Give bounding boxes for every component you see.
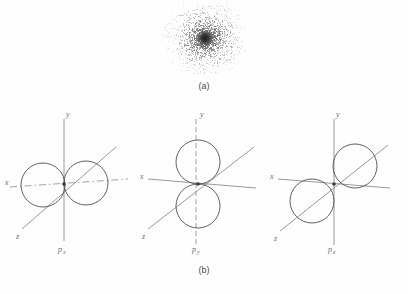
panel-b-p-orbitals: y x z p x y x z p y (0, 105, 408, 294)
y-axis-label: y (335, 110, 340, 119)
x-axis-label: x (139, 172, 144, 181)
p-z-lobe-positive (333, 144, 377, 188)
z-axis-line (22, 147, 116, 229)
p-y-orbital-subscript: y (196, 249, 200, 255)
p-y-lobe-positive (176, 140, 220, 184)
x-axis-label: x (4, 178, 9, 187)
electron-cloud-canvas (155, 2, 255, 74)
y-axis-label: y (65, 110, 70, 119)
y-axis-label: y (199, 110, 204, 119)
z-axis-line (148, 147, 254, 229)
x-axis-label: x (269, 172, 274, 181)
nucleus-point (332, 182, 336, 186)
p-x-orbital-label: p (57, 245, 62, 254)
p-x-orbital-diagram: y x z p x (2, 105, 138, 255)
caption-panel-a: (a) (0, 81, 408, 91)
z-axis-label: z (273, 234, 278, 243)
panel-a-electron-cloud: (a) (0, 0, 408, 105)
p-z-orbital-subscript: z (332, 249, 336, 255)
z-axis-label: z (15, 232, 20, 241)
electron-density-cloud (155, 2, 255, 74)
nucleus-point (62, 182, 66, 186)
p-y-orbital-label: p (191, 245, 196, 254)
caption-panel-b: (b) (0, 265, 408, 275)
z-axis-label: z (141, 232, 146, 241)
p-z-lobe-negative (290, 179, 334, 223)
p-z-orbital-label: p (327, 245, 332, 254)
p-z-orbital-diagram: y x z p z (266, 105, 402, 255)
p-x-orbital-subscript: x (62, 249, 66, 255)
nucleus-point (196, 182, 200, 186)
x-axis-line-dashed (10, 179, 128, 187)
p-y-orbital-diagram: y x z p y (134, 105, 270, 255)
